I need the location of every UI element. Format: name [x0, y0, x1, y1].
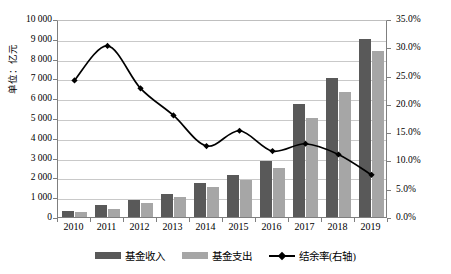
x-axis-tick-mark [321, 218, 322, 222]
plot-area [57, 20, 387, 218]
y-axis-right-tick-label: 25.0% [396, 72, 444, 82]
y-axis-right-tick-label: 30.0% [396, 43, 444, 53]
x-axis-tick-mark [387, 218, 388, 222]
surplus-rate-marker [302, 141, 308, 147]
y-axis-left-tick-label: 2 000 [6, 173, 52, 183]
y-axis-right-tick-label: 20.0% [396, 100, 444, 110]
surplus-rate-marker [203, 143, 209, 149]
x-axis-tick-mark [288, 218, 289, 222]
chart-container: 单位：亿元 01 0002 0003 0004 0005 0006 0007 0… [0, 0, 451, 274]
surplus-rate-marker [335, 151, 341, 157]
y-axis-right-tick-label: 10.0% [396, 156, 444, 166]
legend-label-income: 基金收入 [125, 248, 165, 263]
y-axis-left-tick-label: 9 000 [6, 35, 52, 45]
y-axis-left-tick-label: 4 000 [6, 134, 52, 144]
surplus-rate-marker [236, 128, 242, 134]
x-axis-tick-mark [222, 218, 223, 222]
y-axis-left-tick-label: 5 000 [6, 114, 52, 124]
legend-label-expenditure: 基金支出 [212, 248, 252, 263]
y-axis-left-tick-label: 7 000 [6, 74, 52, 84]
legend-item-income: 基金收入 [95, 248, 165, 263]
surplus-rate-marker [269, 148, 275, 154]
y-axis-left-tick-label: 1 000 [6, 193, 52, 203]
legend-swatch-income [95, 252, 121, 259]
x-axis-tick-mark [123, 218, 124, 222]
y-axis-left-tick-label: 0 [6, 213, 52, 223]
chart-legend: 基金收入 基金支出 结余率(右轴) [0, 248, 451, 263]
y-axis-left-tick-label: 6 000 [6, 94, 52, 104]
legend-swatch-surplus-rate [269, 252, 295, 259]
x-axis-tick-mark [189, 218, 190, 222]
y-axis-right-tick-label: 15.0% [396, 128, 444, 138]
legend-item-expenditure: 基金支出 [182, 248, 252, 263]
surplus-rate-marker [104, 43, 110, 49]
surplus-rate-line [75, 46, 372, 175]
legend-swatch-expenditure [182, 252, 208, 259]
x-axis-tick-mark [90, 218, 91, 222]
y-axis-left-tick-label: 3 000 [6, 154, 52, 164]
legend-label-surplus-rate: 结余率(右轴) [299, 248, 356, 263]
y-axis-right-tick-label: 0.0% [396, 213, 444, 223]
x-axis-tick-mark [354, 218, 355, 222]
x-axis-tick-label: 2019 [351, 222, 391, 232]
x-axis-tick-mark [57, 218, 58, 222]
legend-item-surplus-rate: 结余率(右轴) [269, 248, 356, 263]
y-axis-right-tick-label: 35.0% [396, 15, 444, 25]
x-axis-tick-mark [255, 218, 256, 222]
y-axis-left-tick-label: 8 000 [6, 55, 52, 65]
line-series-svg [58, 21, 388, 219]
y-axis-right-tick-label: 5.0% [396, 185, 444, 195]
y-axis-left-tick-label: 10 000 [6, 15, 52, 25]
x-axis-tick-mark [156, 218, 157, 222]
